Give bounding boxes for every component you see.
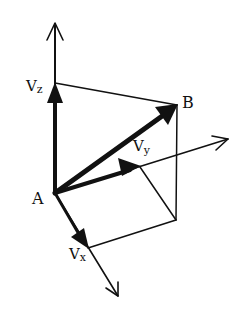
label-vy: Vy [132,137,151,157]
label-vz: Vz [25,77,43,96]
label-vx: Vx [68,245,87,264]
label-b: B [182,93,194,112]
vy-component [55,170,130,193]
label-a: A [31,189,44,208]
vz-arrowhead-icon [47,82,63,103]
vy-arrowhead-icon [118,158,141,176]
vx-component [55,193,80,236]
box-top-edge [55,83,177,105]
x-axis-arrowhead-icon [106,282,118,296]
box-vy-to-corner [140,167,176,220]
box-vx-to-corner [88,220,176,248]
resultant-arrowhead-icon [155,104,178,125]
box-vertical-edge [176,105,177,220]
vector-diagram: Vz B Vy A Vx [0,0,245,321]
